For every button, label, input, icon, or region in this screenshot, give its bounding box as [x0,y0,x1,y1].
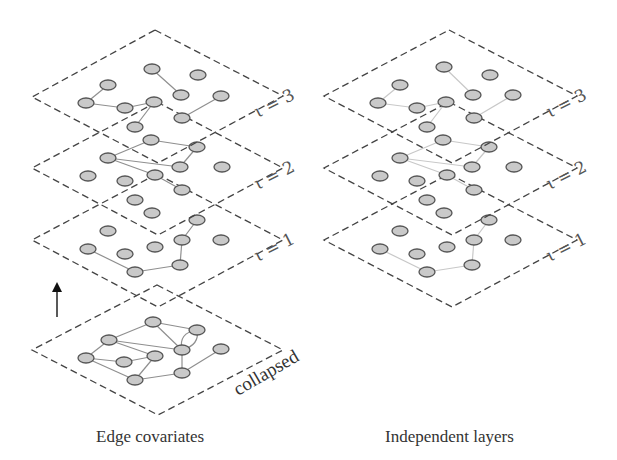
layer-2: ι = 2 [32,102,298,235]
layer-3: ι = 3 [32,30,298,163]
layer-plane [324,30,577,163]
layer-plane [32,174,283,307]
layer-1: ι = 1 [324,174,590,307]
layer-label: ι = 1 [543,228,590,265]
collapsed-layer: collapsed [32,285,303,415]
panel-independent-layers: ι = 1 ι = 2 [324,30,590,446]
caption-independent-layers: Independent layers [385,427,514,446]
panel-edge-covariates: ι = 1 ι = 2 [32,30,303,446]
caption-edge-covariates: Edge covariates [96,427,204,446]
layer-1: ι = 1 [32,174,298,307]
layer-label: ι = 3 [251,84,298,121]
layer-plane [324,174,577,307]
multilayer-network-figure: ι = 1 ι = 2 [0,0,617,460]
layer-label: ι = 1 [251,228,298,265]
layer-label: ι = 2 [251,156,298,193]
layer-2: ι = 2 [324,102,590,235]
layer-label: ι = 2 [543,156,590,193]
layer-label: ι = 3 [543,84,590,121]
up-arrow-icon [52,282,62,317]
layer-3: ι = 3 [324,30,590,163]
